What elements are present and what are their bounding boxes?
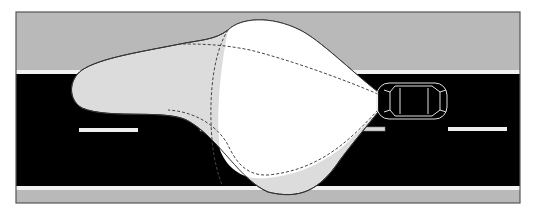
headlight-beam-diagram (0, 0, 537, 214)
